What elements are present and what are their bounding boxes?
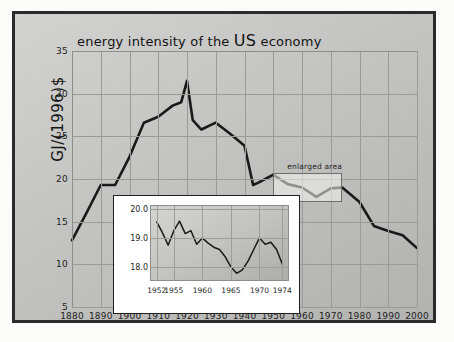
x-axis-tick-1890: 1890 <box>89 311 113 321</box>
x-axis-tick-1980: 1980 <box>348 311 372 321</box>
inset-horizontal-gridline <box>151 267 288 268</box>
y-axis-tick-15: 15 <box>56 217 68 227</box>
inset-x-axis-tick-1955: 1955 <box>164 286 183 295</box>
enlarged-area-label: enlarged area <box>287 162 342 171</box>
y-axis-tick-labels: 5101520253035 <box>43 51 68 307</box>
vertical-gridline <box>417 51 418 307</box>
inset-vertical-gridline <box>202 206 203 280</box>
inset-series-line <box>151 206 288 280</box>
inset-horizontal-gridline <box>151 209 288 210</box>
horizontal-gridline <box>72 179 417 180</box>
x-axis-tick-1970: 1970 <box>319 311 343 321</box>
inset-y-axis-tick-20.0: 20.0 <box>130 204 148 213</box>
horizontal-gridline <box>72 94 417 95</box>
chart-title: energy intensity of the US economy <box>77 31 322 50</box>
inset-vertical-gridline <box>282 206 283 280</box>
x-axis-tick-1880: 1880 <box>60 311 84 321</box>
chart-title-part2: economy <box>256 34 321 49</box>
inset-x-axis-tick-1970: 1970 <box>250 286 269 295</box>
x-axis-tick-1990: 1990 <box>376 311 400 321</box>
chart-title-us: US <box>234 31 256 50</box>
inset-plot-area <box>150 205 289 281</box>
inset-vertical-gridline <box>231 206 232 280</box>
y-axis-tick-10: 10 <box>56 259 68 269</box>
horizontal-gridline <box>72 51 417 52</box>
inset-y-axis-tick-19.0: 19.0 <box>130 233 148 242</box>
inset-horizontal-gridline <box>151 238 288 239</box>
inset-x-axis-tick-1974: 1974 <box>273 286 292 295</box>
chart-title-part1: energy intensity of the <box>77 34 234 49</box>
inset-x-axis-tick-1965: 1965 <box>221 286 240 295</box>
inset-x-axis-tick-labels: 195219551960196519701974 <box>150 286 289 298</box>
horizontal-gridline <box>72 136 417 137</box>
y-axis-tick-20: 20 <box>56 174 68 184</box>
inset-vertical-gridline <box>259 206 260 280</box>
inset-vertical-gridline <box>174 206 175 280</box>
y-axis-tick-30: 30 <box>56 89 68 99</box>
inset-vertical-gridline <box>157 206 158 280</box>
x-axis-tick-2000: 2000 <box>405 311 429 321</box>
inset-x-axis-tick-1960: 1960 <box>193 286 212 295</box>
y-axis-tick-35: 35 <box>56 46 68 56</box>
chart-panel: energy intensity of the US economy GJ/(1… <box>12 11 436 323</box>
inset-chart: 18.019.020.0 195219551960196519701974 <box>113 195 300 314</box>
chart-figure: energy intensity of the US economy GJ/(1… <box>0 0 454 342</box>
inset-y-axis-tick-18.0: 18.0 <box>130 262 148 271</box>
y-axis-tick-25: 25 <box>56 131 68 141</box>
inset-y-axis-tick-labels: 18.019.020.0 <box>116 205 148 281</box>
